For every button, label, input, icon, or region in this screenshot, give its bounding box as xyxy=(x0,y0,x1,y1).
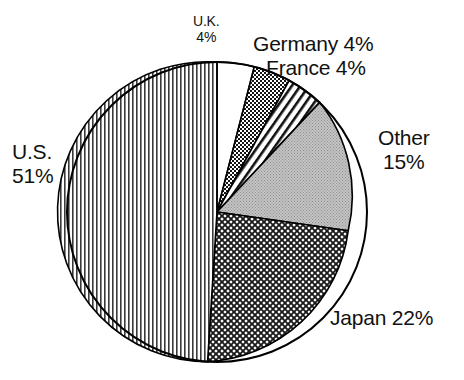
pie-label-japan: Japan 22% xyxy=(330,306,433,330)
pie-label-france-text: France 4% xyxy=(266,56,366,80)
pie-label-uk: U.K. 4% xyxy=(193,14,219,45)
pie-slice-us xyxy=(58,62,217,362)
pie-label-japan-text: Japan 22% xyxy=(330,306,433,330)
pie-label-us: U.S. 51% xyxy=(12,140,53,187)
pie-label-other-value: 15% xyxy=(378,150,430,174)
pie-label-uk-value: 4% xyxy=(193,30,219,46)
pie-label-other: Other 15% xyxy=(378,126,430,173)
pie-label-other-name: Other xyxy=(378,126,430,150)
pie-label-uk-name: U.K. xyxy=(193,14,219,30)
pie-label-france: France 4% xyxy=(266,56,366,80)
pie-slice-japan xyxy=(208,212,349,362)
pie-label-us-value: 51% xyxy=(12,164,53,188)
pie-chart-figure: U.S. 51% U.K. 4% Germany 4% France 4% Ot… xyxy=(0,0,464,380)
pie-label-germany-text: Germany 4% xyxy=(253,32,374,56)
pie-label-germany: Germany 4% xyxy=(253,32,374,56)
pie-label-us-name: U.S. xyxy=(12,140,53,164)
